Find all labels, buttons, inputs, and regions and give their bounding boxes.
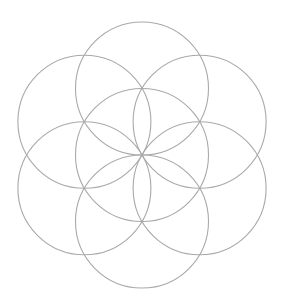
seed-of-life-diagram — [0, 0, 284, 308]
diagram-canvas: Seed of Life — [0, 0, 284, 308]
circle-group — [18, 22, 266, 288]
